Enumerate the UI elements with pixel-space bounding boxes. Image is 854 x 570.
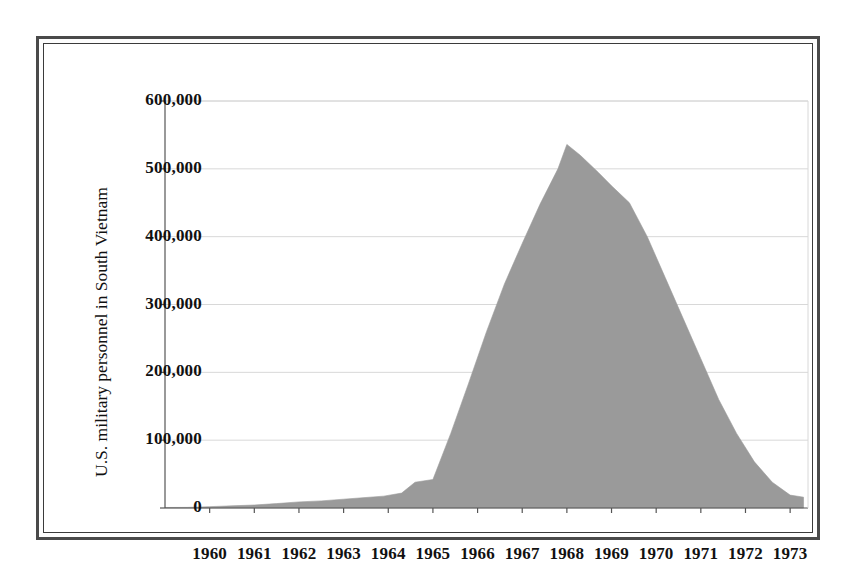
y-axis-tick-label: 600,000: [145, 90, 202, 110]
x-axis-tick-label: 1968: [549, 544, 584, 564]
y-axis-tick-label: 0: [193, 497, 202, 517]
x-axis-tick-label: 1972: [728, 544, 763, 564]
x-axis-tick-label: 1970: [639, 544, 674, 564]
figure-frame-outer: 0100,000200,000300,000400,000500,000600,…: [36, 36, 820, 540]
figure-frame-inner: 0100,000200,000300,000400,000500,000600,…: [43, 43, 813, 533]
x-axis-tick-label: 1966: [460, 544, 495, 564]
y-axis-tick-label: 400,000: [145, 226, 202, 246]
y-axis-tick-label: 300,000: [145, 294, 202, 314]
y-axis-title: U.S. military personnel in South Vietnam: [88, 122, 114, 542]
x-axis-tick-label: 1965: [416, 544, 451, 564]
x-axis-tick-label: 1973: [773, 544, 808, 564]
y-axis-tick-label: 100,000: [145, 429, 202, 449]
x-axis-tick-label: 1963: [326, 544, 361, 564]
x-axis-tick-labels: 1960196119621963196419651966196719681969…: [164, 544, 854, 570]
x-axis-tick-label: 1971: [683, 544, 718, 564]
x-axis-tick-label: 1960: [192, 544, 227, 564]
x-axis-tick-label: 1964: [371, 544, 406, 564]
y-axis-tick-label: 500,000: [145, 158, 202, 178]
x-axis-tick-label: 1969: [594, 544, 629, 564]
x-axis-tick-label: 1967: [505, 544, 540, 564]
x-axis-tick-label: 1961: [237, 544, 272, 564]
y-axis-tick-label: 200,000: [145, 361, 202, 381]
x-axis-tick-label: 1962: [282, 544, 317, 564]
